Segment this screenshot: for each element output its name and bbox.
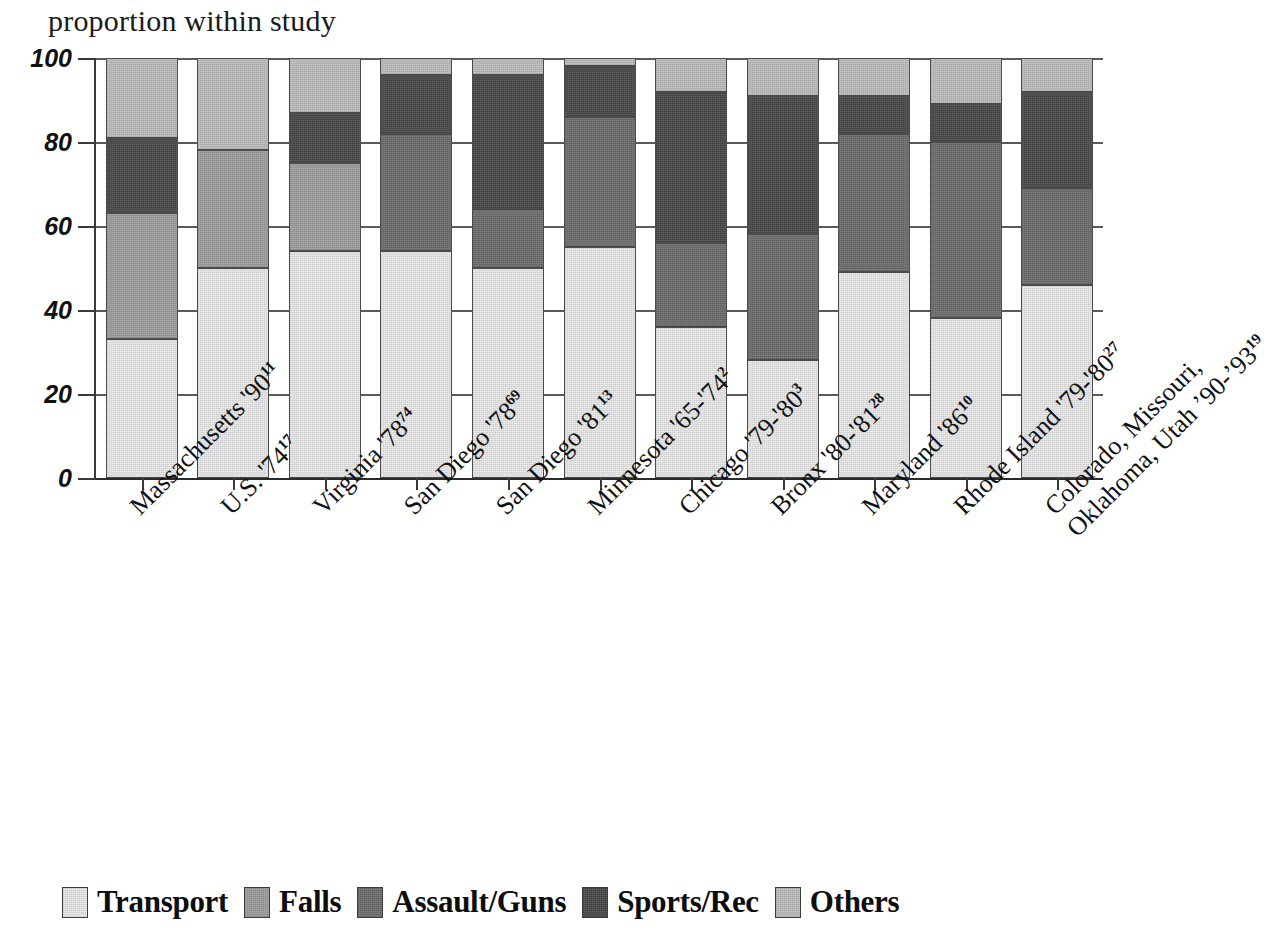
legend-swatch-icon xyxy=(62,887,88,918)
legend-label: Falls xyxy=(279,884,341,920)
legend-item[interactable]: Assault/Guns xyxy=(357,884,566,920)
y-axis-tick-label: 20 xyxy=(0,380,72,409)
bar-segment-assault-guns[interactable] xyxy=(747,234,819,360)
y-tick-20 xyxy=(78,394,96,396)
bar-segment-sports-rec[interactable] xyxy=(289,113,361,163)
y-axis-tick-label: 100 xyxy=(0,44,72,73)
bar-segment-sports-rec[interactable] xyxy=(838,96,910,134)
bar-segment-sports-rec[interactable] xyxy=(655,92,727,243)
bar-segment-others[interactable] xyxy=(472,58,544,75)
bar-segment-falls[interactable] xyxy=(197,150,269,268)
legend-label: Transport xyxy=(97,884,228,920)
bar-segment-assault-guns[interactable] xyxy=(1021,188,1093,285)
bar-segment-assault-guns[interactable] xyxy=(655,243,727,327)
y-axis-tick-label: 80 xyxy=(0,128,72,157)
chart-legend: TransportFallsAssault/GunsSports/RecOthe… xyxy=(62,884,915,920)
bar-segment-others[interactable] xyxy=(380,58,452,75)
bar-segment-others[interactable] xyxy=(747,58,819,96)
chart-title: proportion within study xyxy=(48,4,336,38)
bar-segment-assault-guns[interactable] xyxy=(380,134,452,252)
bar-segment-sports-rec[interactable] xyxy=(106,138,178,214)
y-axis-tick-label: 60 xyxy=(0,212,72,241)
bar-segment-sports-rec[interactable] xyxy=(564,66,636,116)
bar-segment-sports-rec[interactable] xyxy=(1021,92,1093,189)
bar-segment-falls[interactable] xyxy=(289,163,361,251)
legend-item[interactable]: Falls xyxy=(244,884,341,920)
y-tick-40 xyxy=(78,310,96,312)
bar-segment-others[interactable] xyxy=(838,58,910,96)
legend-label: Assault/Guns xyxy=(392,884,566,920)
bar-segment-sports-rec[interactable] xyxy=(930,104,1002,142)
bar-column[interactable] xyxy=(106,58,178,478)
bar-segment-others[interactable] xyxy=(930,58,1002,104)
bar-stack xyxy=(289,58,361,478)
y-axis-tick-label: 0 xyxy=(0,464,72,493)
legend-swatch-icon xyxy=(357,887,383,918)
y-axis-tick-label: 40 xyxy=(0,296,72,325)
bar-segment-assault-guns[interactable] xyxy=(472,209,544,268)
bar-segment-assault-guns[interactable] xyxy=(930,142,1002,318)
y-tick-100 xyxy=(78,58,96,60)
bar-segment-others[interactable] xyxy=(289,58,361,113)
bar-segment-assault-guns[interactable] xyxy=(564,117,636,247)
bar-segment-sports-rec[interactable] xyxy=(747,96,819,235)
legend-swatch-icon xyxy=(775,887,801,918)
y-tick-0 xyxy=(78,478,96,480)
legend-item[interactable]: Others xyxy=(775,884,899,920)
legend-label: Others xyxy=(810,884,899,920)
reference-superscript: 19 xyxy=(1243,330,1265,352)
legend-swatch-icon xyxy=(582,887,608,918)
bar-segment-sports-rec[interactable] xyxy=(380,75,452,134)
bar-segment-assault-guns[interactable] xyxy=(838,134,910,273)
legend-item[interactable]: Transport xyxy=(62,884,228,920)
legend-swatch-icon xyxy=(244,887,270,918)
bar-segment-others[interactable] xyxy=(564,58,636,66)
bar-segment-sports-rec[interactable] xyxy=(472,75,544,209)
bar-segment-others[interactable] xyxy=(655,58,727,92)
y-tick-80 xyxy=(78,142,96,144)
legend-label: Sports/Rec xyxy=(617,884,759,920)
bar-segment-others[interactable] xyxy=(1021,58,1093,92)
bar-segment-others[interactable] xyxy=(197,58,269,150)
y-tick-60 xyxy=(78,226,96,228)
bar-segment-others[interactable] xyxy=(106,58,178,138)
bar-segment-transport[interactable] xyxy=(289,251,361,478)
bar-column[interactable] xyxy=(289,58,361,478)
legend-item[interactable]: Sports/Rec xyxy=(582,884,759,920)
bar-segment-falls[interactable] xyxy=(106,213,178,339)
bar-stack xyxy=(106,58,178,478)
